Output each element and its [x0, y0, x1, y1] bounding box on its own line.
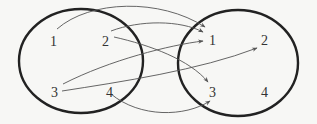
right-element-1: 1	[209, 33, 216, 48]
left-set-ellipse	[19, 9, 143, 113]
left-element-4: 4	[106, 85, 113, 100]
mapping-diagram: 1 2 3 4 1 2 3 4	[0, 0, 317, 124]
right-element-2: 2	[261, 33, 268, 48]
right-element-4: 4	[261, 85, 268, 100]
right-set-ellipse	[178, 10, 298, 116]
arrow-3-to-2	[62, 48, 257, 91]
arrow-2-to-3	[114, 37, 208, 82]
arrow-3-to-1	[63, 41, 203, 84]
left-element-3: 3	[51, 85, 58, 100]
right-element-3: 3	[209, 85, 216, 100]
left-element-2: 2	[102, 34, 109, 49]
left-element-1: 1	[50, 34, 57, 49]
